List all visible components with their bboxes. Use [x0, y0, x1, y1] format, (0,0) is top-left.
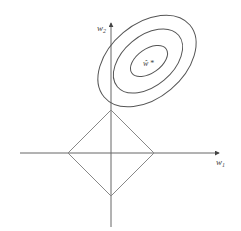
x-axis-label: w1 — [216, 157, 225, 168]
y-axis-label: w2 — [97, 23, 106, 34]
l1-regularization-diagram: w2 w1 ŵ* — [0, 0, 241, 231]
optimum-label: ŵ* — [143, 59, 154, 68]
contour-inner — [125, 39, 173, 83]
